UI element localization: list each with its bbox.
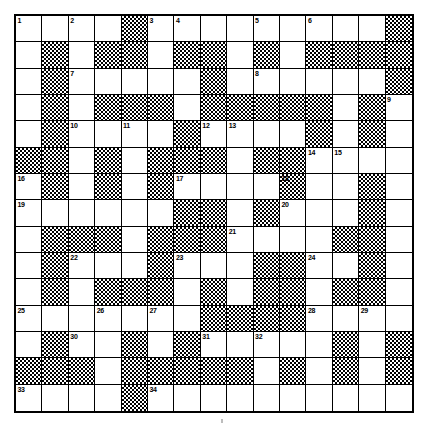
open-square[interactable]	[201, 385, 227, 411]
open-square[interactable]	[16, 227, 42, 253]
open-square[interactable]	[227, 279, 253, 305]
open-square[interactable]	[359, 358, 385, 384]
open-square[interactable]	[69, 306, 95, 332]
open-square[interactable]: 33	[16, 385, 42, 411]
open-square[interactable]	[174, 69, 200, 95]
open-square[interactable]	[95, 385, 121, 411]
open-square[interactable]	[359, 148, 385, 174]
open-square[interactable]	[95, 200, 121, 226]
open-square[interactable]	[174, 279, 200, 305]
open-square[interactable]	[16, 42, 42, 68]
open-square[interactable]	[95, 16, 121, 42]
open-square[interactable]	[333, 385, 359, 411]
open-square[interactable]	[333, 95, 359, 121]
open-square[interactable]	[148, 69, 174, 95]
open-square[interactable]	[280, 121, 306, 147]
open-square[interactable]: 10	[69, 121, 95, 147]
open-square[interactable]	[69, 148, 95, 174]
open-square[interactable]	[122, 69, 148, 95]
open-square[interactable]	[280, 332, 306, 358]
open-square[interactable]: 13	[227, 121, 253, 147]
open-square[interactable]	[69, 385, 95, 411]
open-square[interactable]	[227, 200, 253, 226]
open-square[interactable]	[386, 121, 412, 147]
open-square[interactable]	[42, 306, 68, 332]
open-square[interactable]	[254, 121, 280, 147]
open-square[interactable]: 22	[69, 253, 95, 279]
open-square[interactable]	[254, 174, 280, 200]
open-square[interactable]	[201, 16, 227, 42]
open-square[interactable]	[359, 69, 385, 95]
open-square[interactable]	[359, 16, 385, 42]
open-square[interactable]	[306, 358, 332, 384]
open-square[interactable]: 3	[148, 16, 174, 42]
open-square[interactable]	[201, 253, 227, 279]
open-square[interactable]: 19	[16, 200, 42, 226]
open-square[interactable]	[42, 16, 68, 42]
open-square[interactable]	[386, 253, 412, 279]
open-square[interactable]	[16, 279, 42, 305]
open-square[interactable]: 9	[386, 95, 412, 121]
open-square[interactable]	[386, 174, 412, 200]
open-square[interactable]: 4	[174, 16, 200, 42]
open-square[interactable]	[386, 306, 412, 332]
open-square[interactable]: 7	[69, 69, 95, 95]
open-square[interactable]	[148, 200, 174, 226]
open-square[interactable]	[95, 121, 121, 147]
open-square[interactable]	[254, 358, 280, 384]
open-square[interactable]	[333, 121, 359, 147]
open-square[interactable]	[306, 279, 332, 305]
open-square[interactable]	[333, 16, 359, 42]
open-square[interactable]	[280, 16, 306, 42]
open-square[interactable]: 31	[201, 332, 227, 358]
open-square[interactable]	[386, 227, 412, 253]
open-square[interactable]: 6	[306, 16, 332, 42]
open-square[interactable]	[95, 332, 121, 358]
open-square[interactable]	[333, 200, 359, 226]
open-square[interactable]	[122, 227, 148, 253]
open-square[interactable]	[227, 385, 253, 411]
open-square[interactable]	[280, 227, 306, 253]
open-square[interactable]	[386, 385, 412, 411]
open-square[interactable]	[227, 174, 253, 200]
open-square[interactable]: 12	[201, 121, 227, 147]
open-square[interactable]	[16, 121, 42, 147]
open-square[interactable]: 26	[95, 306, 121, 332]
open-square[interactable]	[122, 200, 148, 226]
open-square[interactable]	[69, 174, 95, 200]
open-square[interactable]: 15	[333, 148, 359, 174]
open-square[interactable]	[148, 332, 174, 358]
open-square[interactable]	[95, 358, 121, 384]
open-square[interactable]	[306, 332, 332, 358]
open-square[interactable]: 25	[16, 306, 42, 332]
open-square[interactable]: 27	[148, 306, 174, 332]
open-square[interactable]	[306, 174, 332, 200]
open-square[interactable]: 17	[174, 174, 200, 200]
open-square[interactable]	[280, 42, 306, 68]
open-square[interactable]	[280, 69, 306, 95]
open-square[interactable]: 21	[227, 227, 253, 253]
open-square[interactable]	[122, 174, 148, 200]
open-square[interactable]	[386, 200, 412, 226]
open-square[interactable]: 24	[306, 253, 332, 279]
open-square[interactable]	[333, 174, 359, 200]
open-square[interactable]	[122, 253, 148, 279]
open-square[interactable]: 30	[69, 332, 95, 358]
open-square[interactable]	[16, 95, 42, 121]
open-square[interactable]: 34	[148, 385, 174, 411]
open-square[interactable]	[227, 42, 253, 68]
open-square[interactable]	[227, 69, 253, 95]
open-square[interactable]	[16, 69, 42, 95]
open-square[interactable]	[16, 253, 42, 279]
open-square[interactable]	[122, 148, 148, 174]
open-square[interactable]	[174, 385, 200, 411]
open-square[interactable]	[95, 253, 121, 279]
open-square[interactable]: 20	[280, 200, 306, 226]
open-square[interactable]	[280, 385, 306, 411]
open-square[interactable]	[254, 385, 280, 411]
open-square[interactable]	[201, 174, 227, 200]
open-square[interactable]	[16, 332, 42, 358]
open-square[interactable]	[386, 148, 412, 174]
open-square[interactable]	[69, 279, 95, 305]
open-square[interactable]	[174, 95, 200, 121]
